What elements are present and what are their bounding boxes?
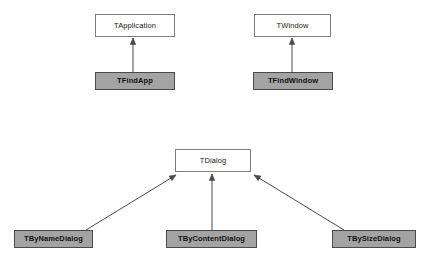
class-node-tfindwindow[interactable]: TFindWindow bbox=[253, 72, 333, 90]
edge-layer bbox=[0, 0, 429, 267]
class-node-label: TDialog bbox=[200, 157, 227, 165]
class-node-tbysizedialog[interactable]: TBySizeDialog bbox=[332, 230, 416, 248]
class-node-label: TByNameDialog bbox=[24, 235, 83, 243]
class-node-label: TFindWindow bbox=[268, 77, 318, 85]
class-node-label: TFindApp bbox=[117, 77, 153, 85]
class-node-label: TByContentDialog bbox=[178, 235, 245, 243]
class-node-tfindapp[interactable]: TFindApp bbox=[95, 72, 175, 90]
edge-arrowhead-icon bbox=[169, 175, 176, 181]
class-node-label: TBySizeDialog bbox=[347, 235, 400, 243]
edge-arrowhead-icon bbox=[289, 38, 294, 44]
edge-arrowhead-icon bbox=[209, 174, 214, 180]
class-node-tapplication[interactable]: TApplication bbox=[95, 14, 175, 37]
edge-line bbox=[254, 175, 344, 230]
class-node-tdialog[interactable]: TDialog bbox=[175, 149, 251, 172]
class-node-label: TApplication bbox=[114, 22, 156, 30]
class-node-tbynamedialog[interactable]: TByNameDialog bbox=[14, 230, 93, 248]
edge-arrowhead-icon bbox=[130, 38, 135, 44]
class-node-tbycontentdialog[interactable]: TByContentDialog bbox=[166, 230, 257, 248]
inheritance-edges bbox=[86, 38, 344, 230]
class-node-label: TWindow bbox=[277, 22, 309, 30]
edge-arrowhead-icon bbox=[254, 175, 261, 181]
class-node-twindow[interactable]: TWindow bbox=[254, 14, 331, 37]
edge-line bbox=[86, 175, 176, 230]
class-diagram-canvas: TApplication TFindApp TWindow TFindWindo… bbox=[0, 0, 429, 267]
